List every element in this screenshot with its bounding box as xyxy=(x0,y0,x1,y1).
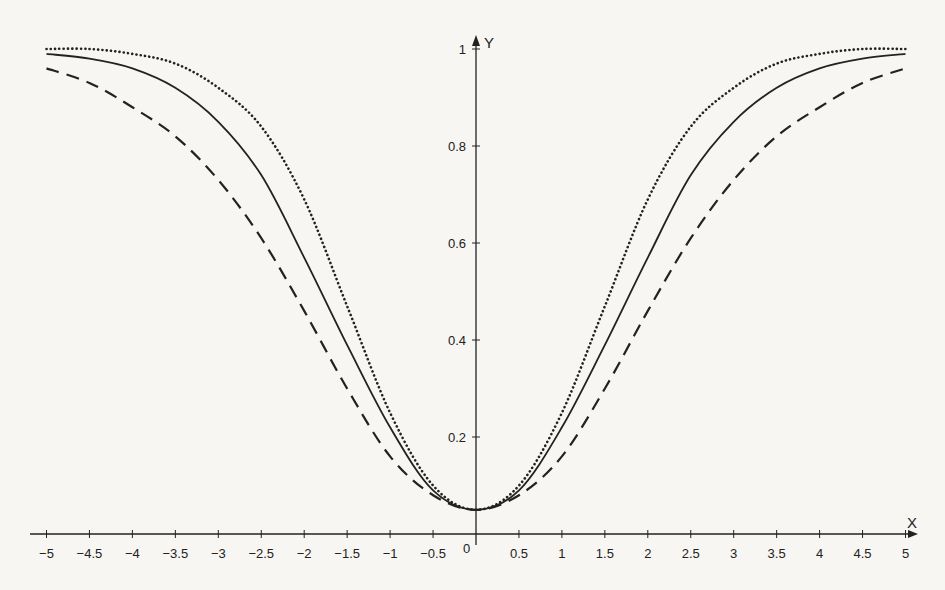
y-tick-label: 0.4 xyxy=(448,333,466,348)
x-tick-label: −0.5 xyxy=(420,546,446,561)
x-tick-label: −5 xyxy=(39,546,54,561)
x-tick-label: −2.5 xyxy=(248,546,274,561)
x-tick-label: −4.5 xyxy=(77,546,103,561)
x-tick-label: −2 xyxy=(297,546,312,561)
x-axis-label: X xyxy=(907,514,917,531)
x-axis-arrow-icon xyxy=(908,530,918,538)
y-tick-label: 0.6 xyxy=(448,236,466,251)
x-tick-label: 4 xyxy=(816,546,823,561)
x-tick-label: −3 xyxy=(211,546,226,561)
x-tick-label: −1.5 xyxy=(334,546,360,561)
y-tick-label: 1 xyxy=(459,42,466,57)
x-tick-label: 2.5 xyxy=(682,546,700,561)
x-tick-label: 3.5 xyxy=(768,546,786,561)
x-axis: X xyxy=(30,514,918,538)
y-tick-label: 0.2 xyxy=(448,430,466,445)
x-tick-label: 1 xyxy=(558,546,565,561)
y-axis-label: Y xyxy=(484,34,494,51)
x-tick-label: −4 xyxy=(125,546,140,561)
origin-label: 0 xyxy=(463,541,470,556)
x-tick-label: 1.5 xyxy=(596,546,614,561)
y-axis-arrow-icon xyxy=(472,35,480,46)
y-ticks: 0.20.40.60.81 xyxy=(448,42,480,445)
x-tick-label: 4.5 xyxy=(854,546,872,561)
x-ticks: −5−4.5−4−3.5−3−2.5−2−1.5−1−0.50.511.522.… xyxy=(39,530,909,561)
x-tick-label: 3 xyxy=(730,546,737,561)
x-tick-label: 0.5 xyxy=(510,546,528,561)
x-tick-label: 2 xyxy=(644,546,651,561)
y-tick-label: 0.8 xyxy=(448,139,466,154)
x-tick-label: −3.5 xyxy=(163,546,189,561)
x-tick-label: −1 xyxy=(383,546,398,561)
chart: X Y 0 −5−4.5−4−3.5−3−2.5−2−1.5−1−0.50.51… xyxy=(0,0,945,590)
x-tick-label: 5 xyxy=(902,546,909,561)
y-axis: Y xyxy=(472,34,494,545)
